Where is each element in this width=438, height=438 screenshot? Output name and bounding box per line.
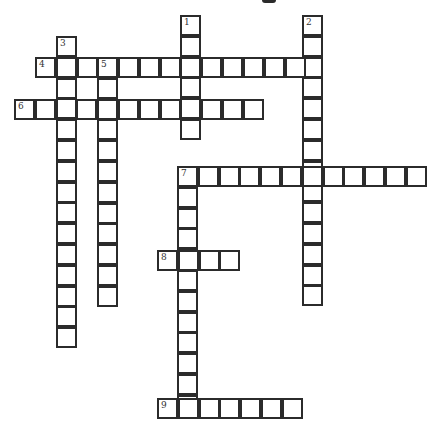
crossword-cell[interactable]: 5 [97,57,118,78]
crossword-cell[interactable] [199,250,220,271]
crossword-cell[interactable] [201,57,222,78]
crossword-cell[interactable] [97,140,118,161]
crossword-cell[interactable] [177,332,198,353]
crossword-cell[interactable] [385,166,406,187]
crossword-cell[interactable] [177,270,198,291]
crossword-cell[interactable] [302,119,323,140]
crossword-cell[interactable] [139,99,160,120]
crossword-cell[interactable] [160,57,181,78]
crossword-cell[interactable] [302,166,323,187]
crossword-cell[interactable] [219,398,240,419]
crossword-cell[interactable] [35,99,56,120]
crossword-cell[interactable] [56,78,77,99]
crossword-cell[interactable] [97,161,118,182]
clue-number: 2 [306,17,312,27]
crossword-cell[interactable]: 9 [157,398,178,419]
crossword-cell[interactable] [97,78,118,99]
crossword-cell[interactable] [222,57,243,78]
crossword-cell[interactable] [177,291,198,312]
crossword-cell[interactable] [343,166,364,187]
crossword-cell[interactable] [97,244,118,265]
crossword-cell[interactable] [281,166,302,187]
crossword-cell[interactable] [97,119,118,140]
crossword-cell[interactable] [323,166,344,187]
crossword-cell[interactable] [56,306,77,327]
crossword-cell[interactable] [219,166,240,187]
crossword-cell[interactable] [302,244,323,265]
crossword-cell[interactable] [180,77,201,98]
crossword-cell[interactable] [282,398,303,419]
crossword-cell[interactable] [56,244,77,265]
crossword-cell[interactable]: 2 [302,15,323,36]
clue-number: 1 [184,17,190,27]
crossword-cell[interactable] [97,286,118,307]
crossword-cell[interactable] [180,57,201,78]
crossword-cell[interactable] [243,99,264,120]
crossword-cell[interactable] [97,99,118,120]
crossword-cell[interactable] [56,202,77,223]
crossword-cell[interactable] [97,223,118,244]
crossword-cell[interactable] [260,166,281,187]
crossword-grid: 123456789 [0,0,438,438]
crossword-cell[interactable] [180,36,201,57]
crossword-cell[interactable]: 1 [180,15,201,36]
crossword-cell[interactable] [56,286,77,307]
crossword-cell[interactable] [264,57,285,78]
crossword-cell[interactable] [97,182,118,203]
crossword-cell[interactable] [56,98,77,119]
crossword-cell[interactable] [177,208,198,229]
crossword-cell[interactable] [261,398,282,419]
crossword-cell[interactable] [178,250,199,271]
crossword-cell[interactable] [302,140,323,161]
crossword-cell[interactable] [56,223,77,244]
crossword-cell[interactable] [97,265,118,286]
crossword-cell[interactable] [56,57,77,78]
crossword-cell[interactable] [56,140,77,161]
crossword-cell[interactable] [199,398,220,419]
crossword-cell[interactable]: 6 [14,99,35,120]
crossword-cell[interactable] [302,223,323,244]
crossword-cell[interactable] [240,398,261,419]
crossword-cell[interactable] [406,166,427,187]
crossword-cell[interactable] [364,166,385,187]
crossword-cell[interactable] [302,265,323,286]
crossword-cell[interactable] [302,98,323,119]
crossword-cell[interactable] [201,99,222,120]
crossword-cell[interactable] [302,36,323,57]
crossword-cell[interactable] [243,57,264,78]
clue-number: 3 [60,38,66,48]
crossword-cell[interactable] [76,99,97,120]
crossword-cell[interactable]: 8 [157,250,178,271]
crossword-cell[interactable] [56,119,77,140]
crossword-cell[interactable] [180,119,201,140]
crossword-cell[interactable] [198,166,219,187]
crossword-cell[interactable] [56,161,77,182]
crossword-cell[interactable] [302,285,323,306]
crossword-cell[interactable] [302,77,323,98]
crossword-cell[interactable]: 4 [35,57,56,78]
crossword-cell[interactable] [160,99,181,120]
crossword-cell[interactable] [77,57,98,78]
crossword-cell[interactable] [178,398,199,419]
crossword-cell[interactable] [177,187,198,208]
crossword-cell[interactable] [239,166,260,187]
crossword-cell[interactable] [56,182,77,203]
crossword-cell[interactable] [97,203,118,224]
crossword-cell[interactable]: 7 [177,166,198,187]
crossword-cell[interactable] [219,250,240,271]
crossword-cell[interactable] [285,57,306,78]
crossword-cell[interactable]: 3 [56,36,77,57]
crossword-cell[interactable] [56,265,77,286]
crossword-cell[interactable] [118,57,139,78]
crossword-cell[interactable] [180,98,201,119]
crossword-cell[interactable] [139,57,160,78]
clue-number: 4 [39,59,45,69]
crossword-cell[interactable] [177,374,198,395]
crossword-cell[interactable] [177,312,198,333]
crossword-cell[interactable] [222,99,243,120]
crossword-cell[interactable] [177,228,198,249]
crossword-cell[interactable] [56,327,77,348]
crossword-cell[interactable] [302,202,323,223]
crossword-cell[interactable] [177,353,198,374]
crossword-cell[interactable] [118,99,139,120]
